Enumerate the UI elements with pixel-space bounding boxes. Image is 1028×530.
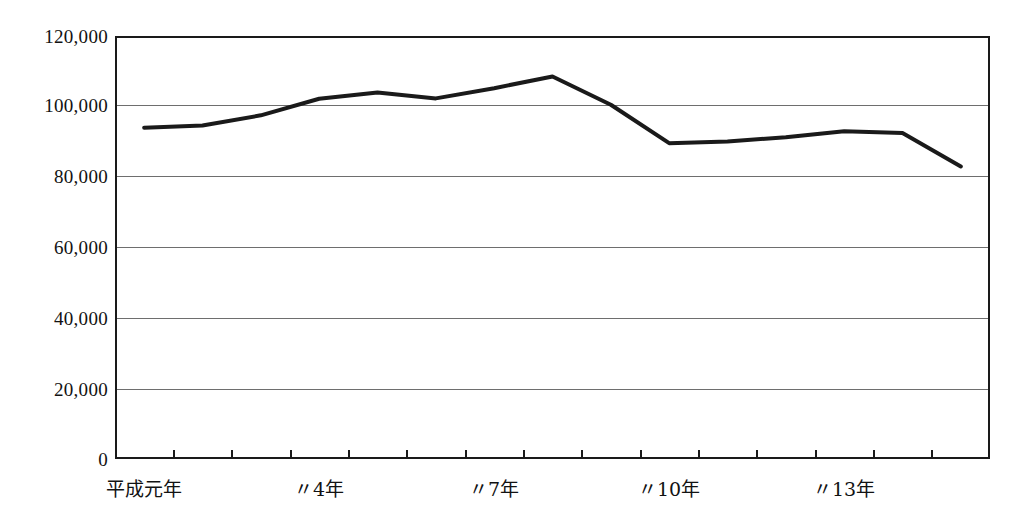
x-tick-label-heisei-4: 〃4年 <box>294 478 344 500</box>
y-tick-label-100000: 100,000 <box>4 96 108 115</box>
y-axis-labels: 120,000 100,000 80,000 60,000 40,000 20,… <box>0 0 108 530</box>
gridline-60000 <box>117 247 988 248</box>
x-tick-12 <box>815 450 817 459</box>
x-tick-3 <box>290 450 292 459</box>
x-tick-1 <box>173 450 175 459</box>
x-tick-5 <box>406 450 408 459</box>
x-tick-label-heisei-13: 〃13年 <box>813 478 875 500</box>
line-chart-figure: 120,000 100,000 80,000 60,000 40,000 20,… <box>0 0 1028 530</box>
x-tick-label-heisei-7: 〃7年 <box>469 478 519 500</box>
y-tick-label-40000: 40,000 <box>4 309 108 328</box>
y-tick-label-0: 0 <box>4 450 108 469</box>
y-tick-label-20000: 20,000 <box>4 380 108 399</box>
x-tick-9 <box>640 450 642 459</box>
y-tick-label-120000: 120,000 <box>4 27 108 46</box>
x-tick-8 <box>581 450 583 459</box>
x-tick-2 <box>231 450 233 459</box>
gridline-80000 <box>117 176 988 177</box>
x-tick-7 <box>523 450 525 459</box>
x-tick-11 <box>756 450 758 459</box>
gridline-40000 <box>117 318 988 319</box>
gridline-100000 <box>117 105 988 106</box>
gridline-20000 <box>117 389 988 390</box>
x-tick-4 <box>348 450 350 459</box>
x-tick-label-heisei-10: 〃10年 <box>638 478 700 500</box>
x-tick-13 <box>873 450 875 459</box>
x-tick-10 <box>698 450 700 459</box>
x-tick-label-heisei-1: 平成元年 <box>106 478 182 500</box>
y-tick-label-80000: 80,000 <box>4 167 108 186</box>
x-tick-6 <box>465 450 467 459</box>
x-tick-14 <box>931 450 933 459</box>
plot-area <box>115 36 990 459</box>
y-tick-label-60000: 60,000 <box>4 238 108 257</box>
